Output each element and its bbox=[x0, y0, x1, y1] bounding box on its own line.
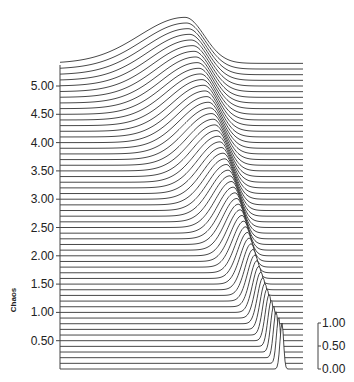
y-tick-label: 0.50 bbox=[31, 334, 55, 348]
height-scale-label: 0.00 bbox=[322, 362, 346, 376]
height-scale-tick-labels: 0.000.501.00 bbox=[322, 316, 346, 376]
ridge-curves bbox=[60, 17, 303, 371]
height-scale-label: 0.50 bbox=[322, 339, 346, 353]
y-tick-label: 2.50 bbox=[31, 221, 55, 235]
y-axis-tick-labels: 0.501.001.502.002.503.003.504.004.505.00 bbox=[31, 79, 55, 348]
height-scale-bar bbox=[318, 323, 321, 369]
ridgeline-chart: 0.501.001.502.002.503.003.504.004.505.00… bbox=[0, 0, 354, 382]
y-tick-label: 3.50 bbox=[31, 164, 55, 178]
y-tick-label: 1.50 bbox=[31, 277, 55, 291]
y-tick-label: 1.00 bbox=[31, 305, 55, 319]
y-tick-label: 5.00 bbox=[31, 79, 55, 93]
y-tick-label: 3.00 bbox=[31, 192, 55, 206]
y-tick-label: 4.00 bbox=[31, 136, 55, 150]
y-tick-label: 4.50 bbox=[31, 107, 55, 121]
y-axis-title: Chaos bbox=[9, 287, 18, 312]
height-scale-label: 1.00 bbox=[322, 316, 346, 330]
y-axis bbox=[56, 65, 60, 369]
y-tick-label: 2.00 bbox=[31, 249, 55, 263]
